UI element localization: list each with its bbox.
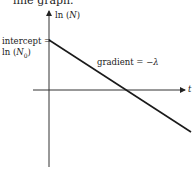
graph-canvas (0, 0, 195, 174)
intercept-label: intercept = ln (N0) (2, 36, 51, 61)
x-axis-label: t (188, 84, 191, 94)
gradient-label: gradient = −λ (97, 57, 159, 67)
y-axis-label: ln (N) (55, 10, 80, 20)
data-line (49, 40, 191, 132)
